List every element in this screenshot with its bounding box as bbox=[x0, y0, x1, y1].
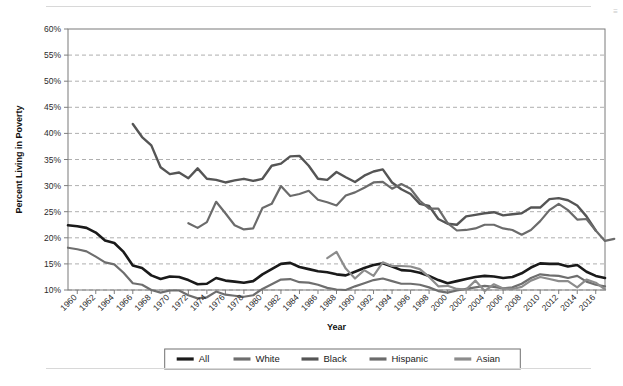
y-tick-label: 10% bbox=[44, 285, 61, 295]
x-tick-label: 2014 bbox=[558, 292, 579, 313]
x-tick-label: 2000 bbox=[429, 292, 450, 313]
x-tick-label: 1988 bbox=[317, 292, 338, 313]
x-tick-label: 1960 bbox=[58, 292, 79, 313]
page-rule-bottom bbox=[46, 368, 591, 369]
x-tick-label: 1962 bbox=[77, 292, 98, 313]
poverty-line-chart: 10%15%20%25%30%35%40%45%50%55%60% 196019… bbox=[0, 0, 623, 386]
page-corner-mark: ≡ bbox=[608, 8, 618, 22]
x-tick-label: 2004 bbox=[466, 292, 487, 313]
y-tick-label: 30% bbox=[44, 181, 61, 191]
x-tick-label: 2012 bbox=[540, 292, 561, 313]
x-axis-tick-labels: 1960196219641966196819701972197419761978… bbox=[58, 292, 597, 313]
y-axis-tick-labels: 10%15%20%25%30%35%40%45%50%55%60% bbox=[44, 24, 61, 295]
x-tick-label: 1982 bbox=[262, 292, 283, 313]
x-tick-label: 1966 bbox=[114, 292, 135, 313]
y-tick-label: 55% bbox=[44, 50, 61, 60]
y-tick-label: 60% bbox=[44, 24, 61, 34]
x-tick-label: 1998 bbox=[410, 292, 431, 313]
y-tick-label: 20% bbox=[44, 233, 61, 243]
data-series-group bbox=[68, 124, 614, 298]
legend-label-black: Black bbox=[324, 353, 347, 364]
y-tick-label: 50% bbox=[44, 76, 61, 86]
x-tick-label: 2016 bbox=[577, 292, 598, 313]
x-tick-label: 1964 bbox=[95, 292, 116, 313]
y-tick-label: 15% bbox=[44, 259, 61, 269]
x-tick-label: 2008 bbox=[503, 292, 524, 313]
y-axis-title: Percent Living in Poverty bbox=[14, 105, 24, 213]
x-tick-label: 1996 bbox=[392, 292, 413, 313]
series-line-black bbox=[133, 124, 596, 230]
x-tick-label: 1994 bbox=[373, 292, 394, 313]
x-tick-label: 1990 bbox=[336, 292, 357, 313]
legend-label-hispanic: Hispanic bbox=[392, 353, 429, 364]
x-tick-label: 2002 bbox=[447, 292, 468, 313]
x-tick-label: 1992 bbox=[354, 292, 375, 313]
y-tick-label: 40% bbox=[44, 128, 61, 138]
chart-legend: AllWhiteBlackHispanicAsian bbox=[165, 349, 521, 369]
x-tick-label: 2006 bbox=[484, 292, 505, 313]
x-tick-label: 1968 bbox=[132, 292, 153, 313]
x-tick-label: 1984 bbox=[280, 292, 301, 313]
series-line-asian bbox=[327, 252, 605, 291]
legend-label-asian: Asian bbox=[476, 353, 500, 364]
legend-label-white: White bbox=[256, 353, 280, 364]
y-tick-label: 45% bbox=[44, 102, 61, 112]
x-tick-label: 1970 bbox=[151, 292, 172, 313]
x-tick-label: 2010 bbox=[521, 292, 542, 313]
page-rule-top bbox=[46, 6, 591, 7]
x-axis-title: Year bbox=[327, 322, 347, 332]
y-tick-label: 35% bbox=[44, 155, 61, 165]
y-tick-label: 25% bbox=[44, 207, 61, 217]
legend-label-all: All bbox=[199, 353, 210, 364]
chart-figure: ≡ 10%15%20%25%30%35%40%45%50%55%60% 1960… bbox=[0, 0, 623, 386]
x-tick-label: 1986 bbox=[299, 292, 320, 313]
